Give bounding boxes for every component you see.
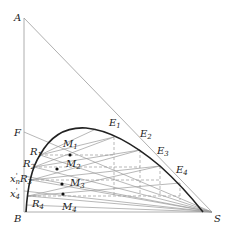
point-M1 [68, 153, 71, 156]
point-M2 [55, 167, 58, 170]
triangle-frame [24, 18, 212, 212]
label-F: F [13, 127, 22, 138]
label-R3: R3 [19, 173, 33, 186]
ternary-phase-diagram: A B S F R1 R2 R3 R4 E1 E2 E3 E4 M1 M2 M3… [0, 0, 228, 230]
label-xn: x'n [10, 172, 21, 186]
point-M3 [60, 182, 63, 185]
edge-AS [24, 18, 212, 212]
label-B: B [13, 213, 21, 224]
label-A: A [13, 12, 21, 23]
raffinate-solvent-lines [24, 155, 212, 212]
label-R4: R4 [31, 198, 44, 211]
label-S: S [214, 213, 221, 224]
labels: A B S F R1 R2 R3 R4 E1 E2 E3 E4 M1 M2 M3… [10, 12, 221, 224]
label-E1: E1 [108, 117, 121, 130]
label-R1: R1 [29, 146, 42, 159]
label-E4: E4 [175, 164, 188, 177]
label-x4: x'4 [10, 187, 20, 201]
point-M4 [61, 192, 64, 195]
